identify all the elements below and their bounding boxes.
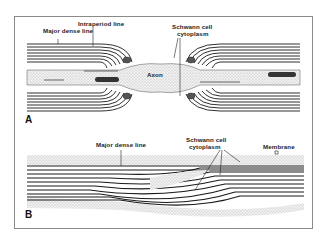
panel-label-b: B <box>25 209 32 220</box>
myelin-diagram <box>0 0 328 239</box>
label-axon: Axon <box>147 71 163 78</box>
label-schwann-cell-a-line1: Schwann cell <box>172 23 212 30</box>
label-intraperiod-line: Intraperiod line <box>78 20 124 27</box>
label-schwann-cell-b-line1: Schwann cell <box>186 136 226 143</box>
label-membrane: Membrane <box>263 143 295 150</box>
panel-a-drawing <box>27 27 300 111</box>
label-schwann-cell-a-line2: cytoplasm <box>177 30 209 37</box>
label-major-dense-line-a: Major dense line <box>43 27 93 34</box>
panel-label-a: A <box>25 114 32 125</box>
label-major-dense-line-b: Major dense line <box>96 141 146 148</box>
label-schwann-cell-b-line2: cytoplasm <box>189 143 221 150</box>
panel-b-drawing <box>27 150 304 217</box>
